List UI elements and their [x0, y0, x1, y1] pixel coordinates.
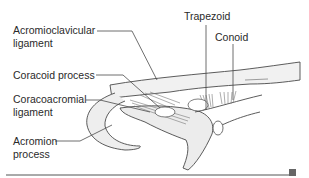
label-acromioclavicular: Acromioclavicular ligament: [13, 24, 95, 50]
label-trapezoid: Trapezoid: [184, 10, 230, 23]
leader-acromioclavicular: [97, 31, 157, 80]
label-line: Coracoacromial: [13, 93, 87, 106]
label-line: Acromion: [13, 135, 57, 148]
label-coracoacromial: Coracoacromial ligament: [13, 93, 87, 119]
label-line: Acromioclavicular: [13, 24, 95, 37]
clavicle: [110, 62, 300, 98]
label-line: process: [13, 148, 57, 161]
label-line: ligament: [13, 106, 87, 119]
label-acromion-process: Acromion process: [13, 135, 57, 161]
label-coracoid-process: Coracoid process: [13, 69, 95, 82]
acromion-process: [87, 93, 141, 150]
label-conoid: Conoid: [215, 31, 248, 44]
corner-marker: [289, 169, 296, 176]
label-line: ligament: [13, 37, 95, 50]
